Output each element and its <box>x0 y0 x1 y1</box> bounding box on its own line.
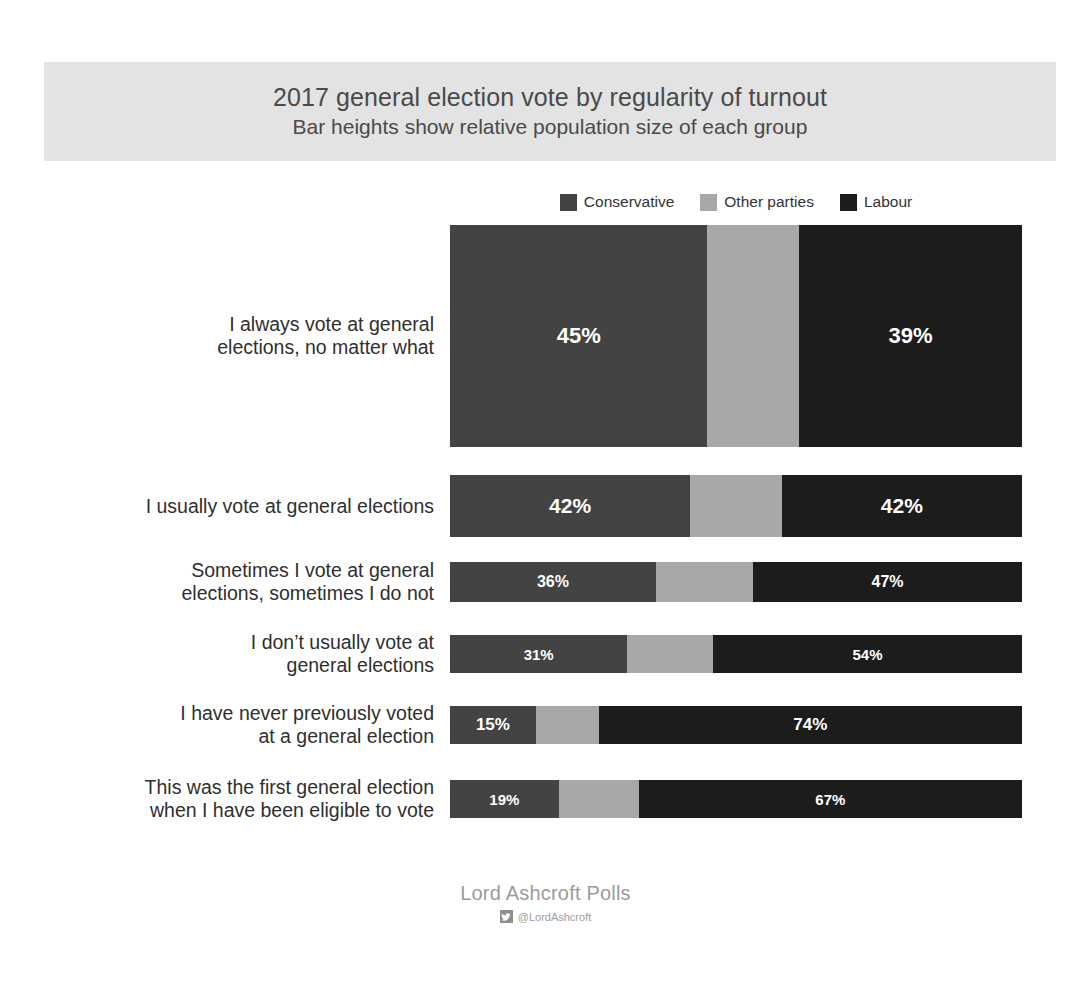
category-label: I always vote at general elections, no m… <box>34 313 434 359</box>
bar-value-label: 31% <box>524 646 554 663</box>
bar-segment-labour[interactable]: 54% <box>713 635 1022 673</box>
bar-row: This was the first general election when… <box>0 780 1091 818</box>
legend-swatch-icon <box>700 194 717 211</box>
bar-row: I have never previously voted at a gener… <box>0 706 1091 744</box>
stacked-bar[interactable]: 19%67% <box>450 780 1022 818</box>
legend-label: Conservative <box>584 193 674 211</box>
category-label: Sometimes I vote at general elections, s… <box>34 559 434 605</box>
chart-footer: Lord Ashcroft Polls @LordAshcroft <box>0 882 1091 923</box>
legend-label: Labour <box>864 193 912 211</box>
footer-handle-row: @LordAshcroft <box>500 910 592 923</box>
bar-value-label: 15% <box>476 715 510 735</box>
bar-segment-conservative[interactable]: 31% <box>450 635 627 673</box>
bar-value-label: 39% <box>888 323 932 349</box>
bar-value-label: 74% <box>793 715 827 735</box>
stacked-bar[interactable]: 15%74% <box>450 706 1022 744</box>
stacked-bar[interactable]: 42%42% <box>450 475 1022 537</box>
bar-segment-conservative[interactable]: 19% <box>450 780 559 818</box>
bar-value-label: 67% <box>815 791 845 808</box>
legend-item-labour[interactable]: Labour <box>840 193 912 211</box>
bar-segment-conservative[interactable]: 36% <box>450 562 656 602</box>
bar-value-label: 19% <box>489 791 519 808</box>
legend-label: Other parties <box>724 193 814 211</box>
category-label: This was the first general election when… <box>34 776 434 822</box>
bar-row: Sometimes I vote at general elections, s… <box>0 562 1091 602</box>
bar-value-label: 47% <box>872 573 904 591</box>
bar-value-label: 36% <box>537 573 569 591</box>
bar-value-label: 45% <box>557 323 601 349</box>
category-label: I have never previously voted at a gener… <box>34 702 434 748</box>
bar-segment-labour[interactable]: 47% <box>753 562 1022 602</box>
bar-row: I always vote at general elections, no m… <box>0 225 1091 447</box>
bar-row: I don’t usually vote at general election… <box>0 635 1091 673</box>
chart-legend: ConservativeOther partiesLabour <box>450 193 1022 211</box>
bar-segment-labour[interactable]: 74% <box>599 706 1022 744</box>
bar-value-label: 42% <box>549 494 591 518</box>
legend-item-other-parties[interactable]: Other parties <box>700 193 814 211</box>
footer-handle: @LordAshcroft <box>518 911 592 923</box>
category-label: I usually vote at general elections <box>34 495 434 518</box>
bar-segment-other-parties[interactable] <box>627 635 713 673</box>
bar-row: I usually vote at general elections42%42… <box>0 475 1091 537</box>
bar-value-label: 42% <box>881 494 923 518</box>
stacked-bar[interactable]: 36%47% <box>450 562 1022 602</box>
bar-segment-labour[interactable]: 67% <box>639 780 1022 818</box>
bar-segment-conservative[interactable]: 42% <box>450 475 690 537</box>
chart-subtitle: Bar heights show relative population siz… <box>293 115 808 139</box>
bar-segment-labour[interactable]: 42% <box>782 475 1022 537</box>
bar-segment-other-parties[interactable] <box>536 706 599 744</box>
legend-swatch-icon <box>840 194 857 211</box>
bar-segment-conservative[interactable]: 45% <box>450 225 707 447</box>
bar-segment-other-parties[interactable] <box>656 562 753 602</box>
stacked-bar[interactable]: 31%54% <box>450 635 1022 673</box>
bar-segment-conservative[interactable]: 15% <box>450 706 536 744</box>
chart-header-band: 2017 general election vote by regularity… <box>44 62 1056 161</box>
footer-brand: Lord Ashcroft Polls <box>460 882 631 905</box>
bar-segment-labour[interactable]: 39% <box>799 225 1022 447</box>
bar-segment-other-parties[interactable] <box>707 225 799 447</box>
chart-title: 2017 general election vote by regularity… <box>273 83 827 111</box>
stacked-bar[interactable]: 45%39% <box>450 225 1022 447</box>
legend-item-conservative[interactable]: Conservative <box>560 193 674 211</box>
legend-swatch-icon <box>560 194 577 211</box>
bar-segment-other-parties[interactable] <box>559 780 639 818</box>
category-label: I don’t usually vote at general election… <box>34 631 434 677</box>
chart-plot-area: I always vote at general elections, no m… <box>0 225 1091 818</box>
twitter-icon <box>500 910 513 923</box>
bar-segment-other-parties[interactable] <box>690 475 782 537</box>
bar-value-label: 54% <box>853 646 883 663</box>
